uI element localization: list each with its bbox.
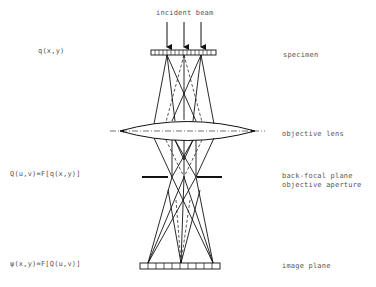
specimen-function-label: q(x,y) bbox=[38, 47, 65, 55]
rays-lens-to-focal bbox=[154, 138, 214, 177]
back-focal-function-label: Q(u,v)=F[q(x,y)] bbox=[10, 170, 81, 178]
rays-focal-to-image bbox=[148, 177, 213, 263]
objective-aperture-label: objective aperture bbox=[282, 181, 361, 189]
electron-optics-diagram bbox=[0, 0, 376, 287]
specimen-label: specimen bbox=[283, 51, 318, 59]
objective-lens bbox=[110, 122, 265, 141]
image-function-label: ψ(x,y)=F[Q(u,v)] bbox=[10, 260, 81, 268]
incident-beam-label: incident beam bbox=[156, 9, 213, 17]
back-focal-plane-label: back-focal plane bbox=[282, 172, 353, 180]
specimen-grating bbox=[151, 50, 216, 55]
rays-specimen-to-lens bbox=[154, 55, 214, 124]
image-plane-grating bbox=[140, 263, 220, 269]
image-plane-label: image plane bbox=[282, 262, 331, 270]
objective-lens-label: objective lens bbox=[282, 130, 344, 138]
incident-beam-arrows bbox=[167, 22, 201, 47]
